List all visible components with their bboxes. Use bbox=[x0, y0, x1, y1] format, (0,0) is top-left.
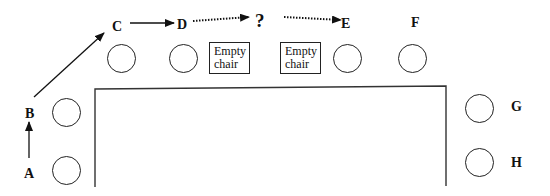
label-e: E bbox=[341, 17, 350, 31]
label-c: C bbox=[112, 20, 122, 34]
question-mark: ? bbox=[255, 11, 265, 30]
label-b: B bbox=[25, 107, 34, 121]
seat-g bbox=[465, 94, 494, 123]
seat-d bbox=[169, 44, 198, 73]
table-outline bbox=[95, 86, 446, 187]
label-d: D bbox=[177, 18, 187, 32]
arrow-d-to-question bbox=[193, 17, 249, 21]
seat-a bbox=[52, 156, 81, 185]
empty-chair-2: Empty chair bbox=[280, 42, 321, 74]
seat-b bbox=[52, 98, 81, 127]
seat-f bbox=[398, 44, 427, 73]
seat-e bbox=[333, 44, 362, 73]
seat-c bbox=[107, 44, 136, 73]
empty-chair-1-line2: chair bbox=[214, 58, 249, 71]
label-f: F bbox=[411, 16, 420, 30]
empty-chair-1: Empty chair bbox=[209, 42, 250, 74]
seat-h bbox=[465, 148, 494, 177]
empty-chair-2-line2: chair bbox=[285, 58, 320, 71]
label-a: A bbox=[24, 167, 34, 181]
arrow-b-to-c bbox=[34, 33, 104, 97]
label-g: G bbox=[511, 100, 522, 114]
arrow-question-to-e bbox=[284, 17, 341, 20]
seating-diagram: A B C D ? E F G H Empty chair Empty chai… bbox=[0, 0, 550, 196]
label-h: H bbox=[511, 156, 522, 170]
